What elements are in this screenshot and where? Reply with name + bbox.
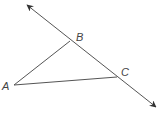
segment-ab bbox=[14, 41, 70, 85]
segment-ac bbox=[14, 77, 117, 85]
label-point-a: A bbox=[1, 80, 9, 92]
geometry-diagram: A B C bbox=[0, 0, 163, 115]
diagram-svg: A B C bbox=[0, 0, 163, 115]
line-bc bbox=[27, 5, 156, 107]
label-point-b: B bbox=[76, 31, 83, 43]
label-point-c: C bbox=[121, 66, 129, 78]
